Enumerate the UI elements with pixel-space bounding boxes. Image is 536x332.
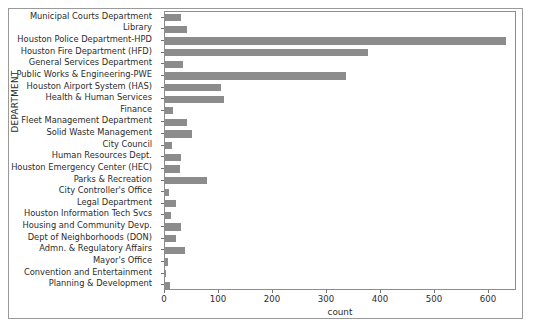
y-tick-mark <box>161 28 164 29</box>
bar-row <box>165 14 515 21</box>
bar-row <box>165 142 515 149</box>
y-tick-mark <box>161 121 164 122</box>
y-tick-mark <box>161 110 164 111</box>
bar-row <box>165 37 515 44</box>
y-tick-label: Finance <box>120 105 152 114</box>
bar <box>165 14 181 21</box>
y-tick-mark <box>161 261 164 262</box>
x-tick-mark <box>272 290 273 293</box>
x-tick-label: 0 <box>161 294 166 304</box>
x-tick-mark <box>434 290 435 293</box>
x-tick-label: 600 <box>480 294 496 304</box>
y-tick-mark <box>161 75 164 76</box>
plot-area <box>164 11 516 290</box>
bar <box>165 223 181 230</box>
y-tick-mark <box>161 249 164 250</box>
bar-row <box>165 247 515 254</box>
bar <box>165 26 187 33</box>
bar <box>165 142 172 149</box>
y-tick-label: Houston Emergency Center (HEC) <box>11 163 152 172</box>
y-tick-mark <box>161 87 164 88</box>
y-tick-mark <box>161 52 164 53</box>
bar-row <box>165 177 515 184</box>
y-tick-mark <box>161 168 164 169</box>
bar <box>165 84 221 91</box>
bar <box>165 258 168 265</box>
bar-row <box>165 154 515 161</box>
bar <box>165 130 192 137</box>
x-tick-mark <box>326 290 327 293</box>
x-tick-label: 100 <box>210 294 226 304</box>
y-tick-mark <box>161 226 164 227</box>
y-tick-label: Houston Airport System (HAS) <box>27 82 152 91</box>
bar <box>165 37 506 44</box>
y-tick-label: Public Works & Engineering-PWE <box>17 70 153 79</box>
bar-row <box>165 270 515 277</box>
y-tick-label: Houston Fire Department (HFD) <box>21 47 152 56</box>
y-tick-mark <box>161 284 164 285</box>
bar <box>165 189 169 196</box>
x-tick-mark <box>218 290 219 293</box>
y-tick-mark <box>161 214 164 215</box>
bar-row <box>165 165 515 172</box>
bar-row <box>165 61 515 68</box>
y-tick-label: Dept of Neighborhoods (DON) <box>28 233 152 242</box>
y-tick-label: Mayor's Office <box>93 256 152 265</box>
y-tick-mark <box>161 17 164 18</box>
bar <box>165 200 176 207</box>
bar-row <box>165 49 515 56</box>
bar <box>165 270 166 277</box>
bar <box>165 247 185 254</box>
bar <box>165 72 346 79</box>
bar <box>165 107 173 114</box>
y-tick-mark <box>161 63 164 64</box>
y-tick-label: Library <box>123 23 152 32</box>
y-tick-label: Fleet Management Department <box>21 116 152 125</box>
y-tick-label: General Services Department <box>29 58 152 67</box>
bar <box>165 282 170 289</box>
x-tick-mark <box>164 290 165 293</box>
y-tick-label: Houston Information Tech Svcs <box>24 209 152 218</box>
bar <box>165 154 181 161</box>
y-tick-label: Legal Department <box>77 198 152 207</box>
x-axis-label: count <box>164 307 516 317</box>
y-tick-mark <box>161 133 164 134</box>
y-tick-mark <box>161 238 164 239</box>
y-tick-mark <box>161 98 164 99</box>
y-tick-label: Parks & Recreation <box>74 175 152 184</box>
bar-row <box>165 282 515 289</box>
bar-row <box>165 189 515 196</box>
y-tick-mark <box>161 191 164 192</box>
bar <box>165 235 176 242</box>
y-axis-tick-labels: Municipal Courts DepartmentLibraryHousto… <box>0 11 158 290</box>
y-tick-label: Human Resources Dept. <box>52 151 152 160</box>
y-tick-mark <box>161 203 164 204</box>
bar-row <box>165 72 515 79</box>
x-tick-mark <box>488 290 489 293</box>
bar <box>165 96 224 103</box>
bar-row <box>165 96 515 103</box>
bar <box>165 49 368 56</box>
y-tick-label: Health & Human Services <box>45 93 152 102</box>
y-tick-label: City Controller's Office <box>59 186 152 195</box>
bar <box>165 61 183 68</box>
bar-row <box>165 119 515 126</box>
bar-row <box>165 200 515 207</box>
bar-row <box>165 130 515 137</box>
bar-row <box>165 26 515 33</box>
bar <box>165 165 180 172</box>
x-tick-label: 200 <box>264 294 280 304</box>
x-tick-label: 500 <box>426 294 442 304</box>
bar-row <box>165 84 515 91</box>
y-tick-label: Admn. & Regulatory Affairs <box>39 244 152 253</box>
bar-row <box>165 223 515 230</box>
bar-row <box>165 107 515 114</box>
y-tick-mark <box>161 40 164 41</box>
y-tick-label: Municipal Courts Department <box>30 12 152 21</box>
bar <box>165 212 171 219</box>
bar-series <box>165 12 515 289</box>
y-tick-label: City Council <box>103 140 152 149</box>
y-tick-mark <box>161 180 164 181</box>
y-tick-label: Solid Waste Management <box>46 128 152 137</box>
y-tick-mark <box>161 273 164 274</box>
